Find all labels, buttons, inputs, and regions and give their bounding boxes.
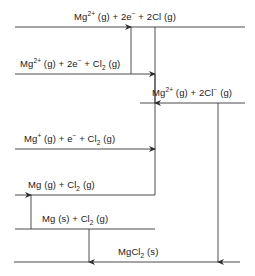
level-label-mgcl2-s: MgCl2 (s)	[118, 246, 158, 257]
level-label-mg-g-cl2: Mg (g) + Cl2 (g)	[28, 179, 95, 190]
level-label-mg2plus-2clminus: Mg2+ (g) + 2Cl− (g)	[152, 87, 232, 98]
energy-level-diagram: Mg2+ (g) + 2e− + 2Cl (g) Mg2+ (g) + 2e− …	[0, 0, 255, 276]
level-label-mgplus-e-cl2: Mg+ (g) + e− + Cl2 (g)	[24, 133, 115, 144]
level-label-mg2plus-2e-2cl: Mg2+ (g) + 2e− + 2Cl (g)	[74, 11, 176, 22]
level-label-mg-s-cl2: Mg (s) + Cl2 (g)	[42, 213, 108, 224]
level-label-mg2plus-2e-cl2: Mg2+ (g) + 2e− + Cl2 (g)	[20, 58, 120, 69]
